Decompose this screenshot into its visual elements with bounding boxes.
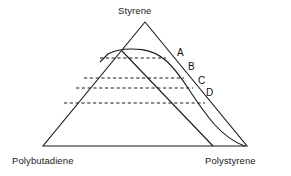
phase-boundary-group [100, 49, 245, 146]
binodal-curve [108, 49, 245, 146]
triangle-outline-group [43, 22, 247, 146]
region-label-a: A [177, 47, 184, 58]
vertex-label-polystyrene: Polystyrene [205, 155, 256, 166]
vertex-label-styrene: Styrene [118, 5, 151, 16]
region-label-b: B [188, 61, 195, 72]
triangle-outline [43, 22, 247, 146]
interior-composition-line [122, 51, 213, 146]
vertex-label-polybutadiene: Polybutadiene [12, 155, 74, 166]
region-label-d: D [206, 87, 213, 98]
ternary-diagram-canvas [0, 0, 291, 176]
region-label-c: C [198, 75, 205, 86]
ternary-phase-diagram-figure: Styrene Polybutadiene Polystyrene A B C … [0, 0, 291, 176]
